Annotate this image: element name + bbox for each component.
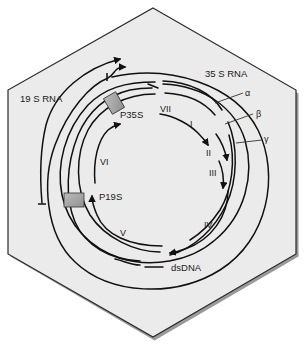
- label-p35s: P35S: [120, 109, 143, 120]
- label-orf-vi: VI: [100, 157, 109, 167]
- genome-diagram: 19 S RNA 35 S RNA P35S P19S dsDNA α β γ …: [0, 0, 305, 347]
- label-orf-i: I: [190, 119, 193, 129]
- label-orf-ii: II: [206, 148, 211, 158]
- label-orf-v: V: [120, 228, 126, 238]
- label-beta: β: [256, 109, 261, 119]
- label-alpha: α: [245, 88, 250, 98]
- label-orf-vii: VII: [160, 104, 171, 114]
- hexagon-capsid: [8, 8, 299, 341]
- label-dsdna: dsDNA: [171, 262, 202, 273]
- label-orf-iv: IV: [204, 220, 213, 230]
- label-35s-rna: 35 S RNA: [205, 68, 248, 79]
- promoter-19s-box: [64, 193, 84, 207]
- label-orf-iii: III: [209, 168, 217, 178]
- label-gamma: γ: [264, 134, 269, 144]
- label-p19s: P19S: [99, 191, 122, 202]
- label-19s-rna: 19 S RNA: [20, 93, 63, 104]
